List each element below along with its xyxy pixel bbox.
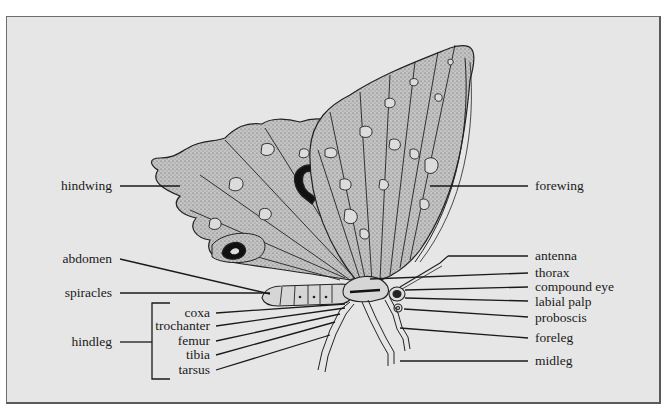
midleg-shape xyxy=(362,300,394,366)
label-proboscis: proboscis xyxy=(535,311,587,325)
label-abdomen: abdomen xyxy=(30,252,112,266)
label-foreleg: foreleg xyxy=(535,331,573,345)
label-spiracles: spiracles xyxy=(30,286,112,300)
label-hindleg: hindleg xyxy=(30,335,112,349)
label-tarsus: tarsus xyxy=(140,363,210,377)
label-compound-eye: compound eye xyxy=(535,280,614,294)
label-tibia: tibia xyxy=(140,348,210,362)
label-hindwing: hindwing xyxy=(30,179,112,193)
abdomen-shape xyxy=(262,284,353,306)
label-forewing: forewing xyxy=(535,179,584,193)
forewing-shape xyxy=(310,45,474,285)
label-thorax: thorax xyxy=(535,266,570,280)
butterfly-illustration xyxy=(0,0,664,411)
label-midleg: midleg xyxy=(535,354,573,368)
label-antenna: antenna xyxy=(535,249,577,263)
label-trochanter: trochanter xyxy=(140,319,210,333)
label-femur: femur xyxy=(140,334,210,348)
label-labial-palp: labial palp xyxy=(535,295,592,309)
